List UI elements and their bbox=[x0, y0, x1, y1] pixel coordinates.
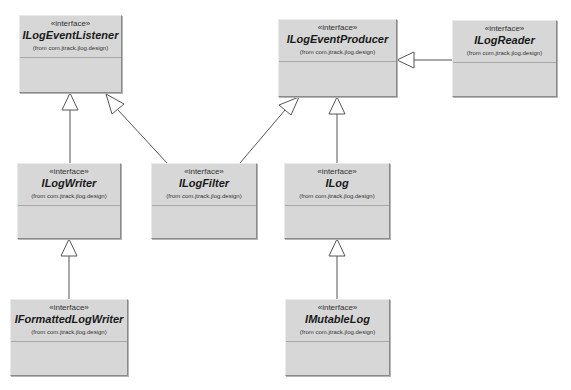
class-name: IMutableLog bbox=[286, 312, 389, 326]
inherit-arrow-icon bbox=[61, 239, 77, 256]
stereotype-label: «interface» bbox=[11, 303, 127, 312]
class-imutablelog[interactable]: «interface» IMutableLog (from com.jtrack… bbox=[285, 299, 390, 376]
class-name: ILogEventListener bbox=[20, 28, 121, 42]
class-name: ILogEventProducer bbox=[279, 32, 396, 46]
package-label: (from com.jtrack.jlog.design) bbox=[152, 191, 256, 206]
inherit-arrow-icon bbox=[397, 52, 414, 68]
class-name: ILogWriter bbox=[18, 176, 120, 190]
package-label: (from com.jtrack.jlog.design) bbox=[18, 191, 120, 206]
inherit-arrow-icon bbox=[106, 94, 124, 114]
stereotype-label: «interface» bbox=[20, 19, 121, 28]
inherit-arrow-icon bbox=[329, 97, 345, 114]
class-ilogeventproducer[interactable]: «interface» ILogEventProducer (from com.… bbox=[278, 19, 397, 97]
package-label: (from com.jtrack.jlog.design) bbox=[286, 327, 389, 342]
edge-ilogfilter-ilogeventproducer bbox=[240, 110, 285, 163]
edge-ilogfilter-ilogeventlistener bbox=[118, 110, 167, 163]
package-label: (from com.jtrack.jlog.design) bbox=[11, 327, 127, 342]
class-iformattedlogwriter[interactable]: «interface» IFormattedLogWriter (from co… bbox=[10, 299, 128, 376]
stereotype-label: «interface» bbox=[286, 303, 389, 312]
class-ilogeventlistener[interactable]: «interface» ILogEventListener (from com.… bbox=[19, 15, 122, 93]
stereotype-label: «interface» bbox=[152, 167, 256, 176]
class-name: ILog bbox=[285, 176, 389, 190]
class-name: ILogFilter bbox=[152, 176, 256, 190]
stereotype-label: «interface» bbox=[18, 167, 120, 176]
package-label: (from com.jtrack.jlog.design) bbox=[279, 47, 396, 62]
class-name: ILogReader bbox=[453, 33, 556, 47]
class-ilogwriter[interactable]: «interface» ILogWriter (from com.jtrack.… bbox=[17, 163, 121, 239]
class-ilog[interactable]: «interface» ILog (from com.jtrack.jlog.d… bbox=[284, 163, 390, 239]
class-ilogreader[interactable]: «interface» ILogReader (from com.jtrack.… bbox=[452, 20, 557, 97]
stereotype-label: «interface» bbox=[285, 167, 389, 176]
stereotype-label: «interface» bbox=[279, 23, 396, 32]
class-name: IFormattedLogWriter bbox=[11, 312, 127, 326]
package-label: (from com.jtrack.jlog.design) bbox=[453, 48, 556, 63]
package-label: (from com.jtrack.jlog.design) bbox=[285, 191, 389, 206]
inherit-arrow-icon bbox=[329, 239, 345, 256]
class-ilogfilter[interactable]: «interface» ILogFilter (from com.jtrack.… bbox=[151, 163, 257, 239]
inherit-arrow-icon bbox=[62, 93, 78, 110]
package-label: (from com.jtrack.jlog.design) bbox=[20, 43, 121, 58]
inherit-arrow-icon bbox=[279, 97, 299, 115]
stereotype-label: «interface» bbox=[453, 24, 556, 33]
